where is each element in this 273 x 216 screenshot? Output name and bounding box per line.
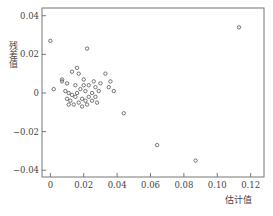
data-point xyxy=(74,84,77,87)
data-point xyxy=(82,78,85,81)
data-point xyxy=(112,89,115,92)
data-points xyxy=(49,26,241,163)
data-point xyxy=(155,143,158,146)
data-point xyxy=(79,87,82,90)
data-point xyxy=(70,70,73,73)
data-point xyxy=(237,26,240,29)
data-point xyxy=(80,97,83,100)
data-point xyxy=(84,99,87,102)
data-point xyxy=(74,95,77,98)
data-point xyxy=(95,101,98,104)
data-point xyxy=(90,91,93,94)
data-point xyxy=(75,91,78,94)
x-axis-title: 估计值 xyxy=(225,194,252,205)
data-point xyxy=(99,82,102,85)
data-point xyxy=(104,72,107,75)
data-point xyxy=(80,105,83,108)
data-point xyxy=(84,89,87,92)
y-tick-label: 0.04 xyxy=(20,11,39,21)
x-tick-label: 0.08 xyxy=(174,180,193,190)
data-point xyxy=(97,89,100,92)
x-tick-label: 0.10 xyxy=(208,180,227,190)
y-axis-title: 残差值 xyxy=(8,40,18,68)
data-point xyxy=(67,103,70,106)
data-point xyxy=(65,97,68,100)
data-point xyxy=(72,103,75,106)
x-tick-label: 0.12 xyxy=(241,180,260,190)
y-tick-label: −0.04 xyxy=(13,165,39,175)
data-point xyxy=(77,101,80,104)
data-point xyxy=(65,82,68,85)
data-point xyxy=(64,89,67,92)
y-tick-label: 0.02 xyxy=(20,49,39,59)
data-point xyxy=(67,91,70,94)
data-point xyxy=(122,112,125,115)
x-tick-label: 0 xyxy=(48,180,53,190)
data-point xyxy=(77,72,80,75)
data-point xyxy=(109,80,112,83)
x-tick-label: 0.06 xyxy=(141,180,160,190)
data-point xyxy=(85,47,88,50)
data-point xyxy=(69,99,72,102)
data-point xyxy=(85,103,88,106)
data-point xyxy=(75,66,78,69)
data-point xyxy=(82,84,85,87)
residual-scatter-chart: 00.020.040.060.080.100.12 0.040.020−0.02… xyxy=(0,0,273,216)
data-point xyxy=(52,87,55,90)
data-point xyxy=(107,85,110,88)
data-point xyxy=(70,93,73,96)
data-point xyxy=(90,99,93,102)
data-point xyxy=(87,95,90,98)
data-point xyxy=(94,85,97,88)
data-point xyxy=(87,84,90,87)
y-axis-ticks: 0.040.020−0.02−0.04 xyxy=(13,11,46,176)
y-tick-label: 0 xyxy=(34,88,39,98)
x-axis-ticks: 00.020.040.060.080.100.12 xyxy=(48,173,260,190)
data-point xyxy=(92,80,95,83)
data-point xyxy=(49,39,52,42)
data-point xyxy=(94,95,97,98)
x-tick-label: 0.02 xyxy=(74,180,93,190)
y-tick-label: −0.02 xyxy=(13,127,39,137)
data-point xyxy=(194,159,197,162)
x-tick-label: 0.04 xyxy=(108,180,127,190)
